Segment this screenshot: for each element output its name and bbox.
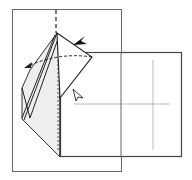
diagram-canvas <box>0 0 192 180</box>
origami-diagram: origami-instruction-step <box>0 0 192 180</box>
